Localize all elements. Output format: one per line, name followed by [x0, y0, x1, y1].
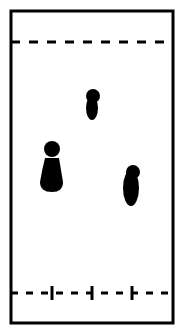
plate-border	[11, 11, 173, 323]
tlc-plate-diagram	[0, 0, 182, 332]
